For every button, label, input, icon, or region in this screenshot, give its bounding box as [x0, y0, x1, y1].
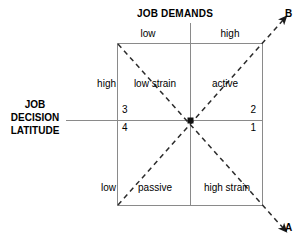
job-demands-high-label: high: [210, 28, 250, 40]
quadrant-label-passive: passive: [128, 182, 182, 194]
quadrant-number-2: 2: [228, 104, 256, 116]
quadrant-number-4: 4: [122, 122, 128, 134]
arrow-label-b: B: [285, 8, 299, 20]
center-point-marker: [188, 118, 194, 124]
job-decision-latitude-line-1: JOB: [6, 98, 64, 111]
job-decision-latitude-axis-label: JOB DECISION LATITUDE: [6, 98, 64, 137]
quadrant-label-low-strain: low strain: [125, 78, 185, 90]
arrow-label-a: A: [285, 222, 299, 234]
job-demands-low-label: low: [128, 28, 168, 40]
diagonal-strain-axis-a: [118, 44, 284, 229]
job-decision-latitude-line-3: LATITUDE: [6, 124, 64, 137]
job-decision-latitude-line-2: DECISION: [6, 111, 64, 124]
quadrant-label-active: active: [200, 78, 250, 90]
diagram-canvas: JOB DEMANDS JOB DECISION LATITUDE low hi…: [0, 0, 303, 244]
quadrant-label-high-strain: high strain: [196, 182, 258, 194]
quadrant-number-3: 3: [122, 104, 128, 116]
job-demands-title: JOB DEMANDS: [110, 8, 240, 20]
latitude-low-label: low: [88, 182, 116, 194]
latitude-high-label: high: [88, 78, 116, 90]
diagonal-activity-axis-b: [118, 19, 284, 205]
quadrant-number-1: 1: [228, 122, 256, 134]
